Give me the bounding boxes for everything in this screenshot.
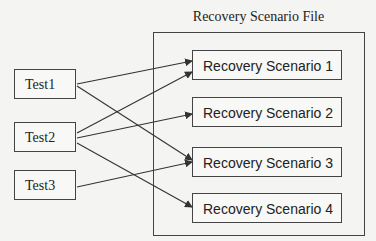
arrow-test2-rs2 xyxy=(77,114,192,138)
connection-arrows xyxy=(0,0,376,241)
arrow-test1-rs3 xyxy=(77,86,192,160)
arrow-test2-rs1 xyxy=(77,72,192,133)
arrow-test3-rs3 xyxy=(77,162,192,187)
